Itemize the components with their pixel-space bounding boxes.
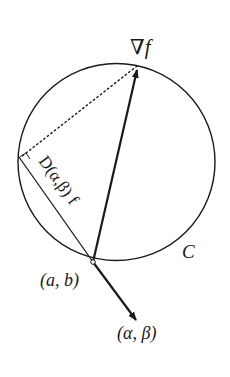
circle-label: C xyxy=(182,241,195,262)
direction-label: (α, β) xyxy=(117,323,156,344)
gradient-circle-diagram: ∇f D(α,β) f C (a, b) (α, β) xyxy=(0,0,230,377)
directional-derivative-label: D(α,β) f xyxy=(35,152,83,208)
gradient-label: ∇f xyxy=(130,35,154,59)
right-angle-marker xyxy=(20,153,31,159)
direction-vector-arrow xyxy=(93,262,136,320)
point-ab-label: (a, b) xyxy=(40,270,79,291)
gradient-vector-arrow xyxy=(93,70,137,262)
point-ab-marker xyxy=(91,260,96,265)
